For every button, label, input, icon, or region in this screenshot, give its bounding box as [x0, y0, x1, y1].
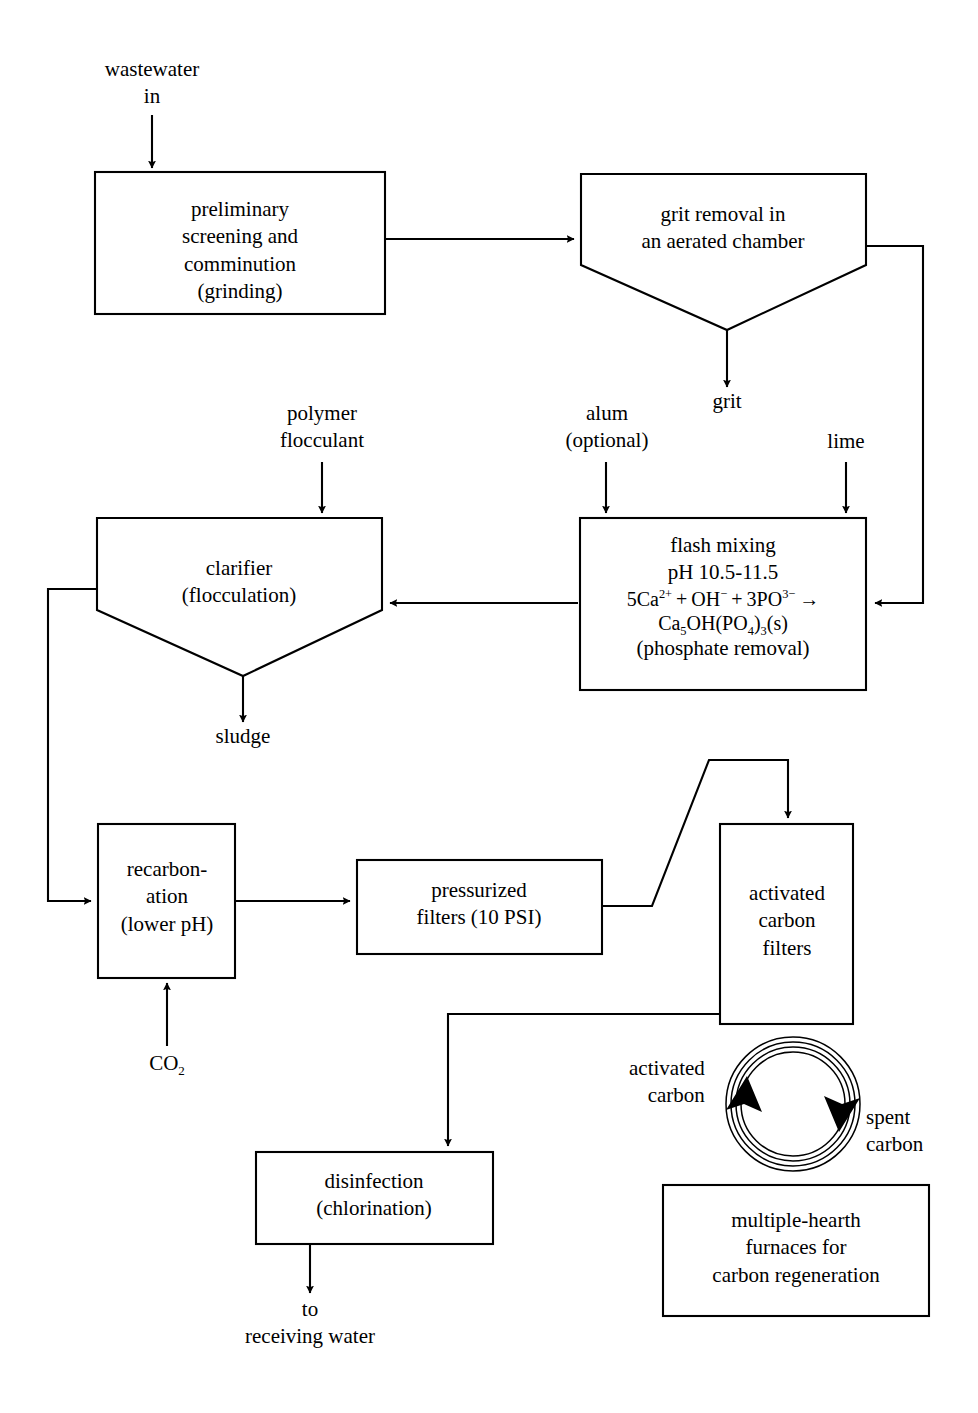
flow-label-lime: lime	[827, 428, 864, 455]
node-label-recarbonation: recarbon- ation (lower pH)	[121, 856, 214, 938]
activated-carbon-label-line-1: activated	[629, 1055, 705, 1082]
co2-text: CO2	[149, 1050, 185, 1077]
recarbonation-line-3: (lower pH)	[121, 911, 214, 938]
flowchart-vector-layer	[0, 0, 978, 1413]
flow-label-inlet: wastewater in	[105, 56, 199, 110]
lime-line-1: lime	[827, 428, 864, 455]
flash-mixing-caption: (phosphate removal)	[627, 635, 820, 662]
activated-carbon-label-line-2: carbon	[629, 1082, 705, 1109]
flash-mixing-line-1: flash mixing	[627, 532, 820, 559]
carbon-loop-arrowheads	[726, 1076, 860, 1132]
grit-removal-line-1: grit removal in	[641, 201, 804, 228]
flow-label-sludge: sludge	[216, 723, 271, 750]
furnace-line-1: multiple-hearth	[712, 1207, 879, 1234]
recarbonation-line-1: recarbon-	[121, 856, 214, 883]
recarbonation-line-2: ation	[121, 883, 214, 910]
polymer-line-1: polymer	[280, 400, 364, 427]
node-label-preliminary: preliminary screening and comminution (g…	[182, 196, 298, 305]
edge-grit-to-flash-mixing	[866, 246, 923, 603]
inlet-line-1: wastewater	[105, 56, 199, 83]
node-label-flash-mixing: flash mixing pH 10.5-11.5 5Ca2+ + OH− + …	[627, 532, 820, 663]
inlet-line-2: in	[105, 83, 199, 110]
flow-label-grit: grit	[712, 388, 741, 415]
alum-line-2: (optional)	[566, 427, 649, 454]
spent-carbon-label-line-1: spent	[866, 1104, 923, 1131]
flash-mixing-line-2: pH 10.5-11.5	[627, 559, 820, 586]
clarifier-line-1: clarifier	[182, 555, 296, 582]
flash-mixing-equation-2: Ca5OH(PO4)3(s)	[627, 611, 820, 635]
flow-label-spent-carbon: spent carbon	[866, 1104, 923, 1158]
flow-label-polymer-flocculant: polymer flocculant	[280, 400, 364, 454]
outlet-line-2: receiving water	[245, 1323, 375, 1350]
flow-label-co2: CO2	[149, 1050, 185, 1077]
activated-carbon-line-2: carbon	[749, 907, 825, 934]
polymer-line-2: flocculant	[280, 427, 364, 454]
disinfection-line-1: disinfection	[316, 1168, 431, 1195]
node-label-grit-removal: grit removal in an aerated chamber	[641, 201, 804, 256]
edge-clarifier-to-recarbonation	[48, 589, 97, 901]
node-label-pressurized-filters: pressurized filters (10 PSI)	[417, 877, 542, 932]
grit-line-1: grit	[712, 388, 741, 415]
flash-mixing-equation-1: 5Ca2+ + OH− + 3PO3− →	[627, 587, 820, 611]
clarifier-line-2: (flocculation)	[182, 582, 296, 609]
preliminary-line-3: comminution	[182, 251, 298, 278]
sludge-line-1: sludge	[216, 723, 271, 750]
node-label-activated-carbon-filters: activated carbon filters	[749, 880, 825, 962]
spent-carbon-label-line-2: carbon	[866, 1131, 923, 1158]
activated-carbon-line-1: activated	[749, 880, 825, 907]
furnace-line-3: carbon regeneration	[712, 1262, 879, 1289]
preliminary-line-4: (grinding)	[182, 278, 298, 305]
flow-label-outlet: to receiving water	[245, 1296, 375, 1350]
node-label-clarifier: clarifier (flocculation)	[182, 555, 296, 610]
preliminary-line-2: screening and	[182, 223, 298, 250]
preliminary-line-1: preliminary	[182, 196, 298, 223]
outlet-line-1: to	[245, 1296, 375, 1323]
furnace-line-2: furnaces for	[712, 1234, 879, 1261]
disinfection-line-2: (chlorination)	[316, 1195, 431, 1222]
flow-label-activated-carbon: activated carbon	[629, 1055, 705, 1109]
alum-line-1: alum	[566, 400, 649, 427]
pressurized-filters-line-2: filters (10 PSI)	[417, 904, 542, 931]
node-label-furnaces: multiple-hearth furnaces for carbon rege…	[712, 1207, 879, 1289]
flowchart-canvas: preliminary screening and comminution (g…	[0, 0, 978, 1413]
activated-carbon-line-3: filters	[749, 935, 825, 962]
pressurized-filters-line-1: pressurized	[417, 877, 542, 904]
grit-removal-line-2: an aerated chamber	[641, 228, 804, 255]
flow-label-alum: alum (optional)	[566, 400, 649, 454]
node-label-disinfection: disinfection (chlorination)	[316, 1168, 431, 1223]
